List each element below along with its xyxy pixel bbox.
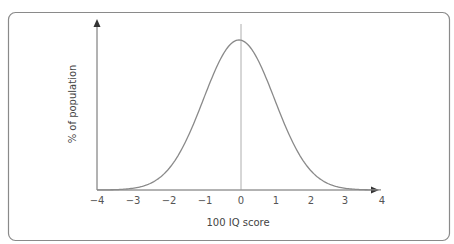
x-tick-label: 2 xyxy=(308,195,314,206)
x-tick-label: −4 xyxy=(90,195,105,206)
x-tick-label: 3 xyxy=(342,195,348,206)
y-axis-title: % of population xyxy=(67,65,78,144)
x-tick-labels: −4−3−2−101234 xyxy=(90,195,386,206)
x-axis-title: 100 IQ score xyxy=(206,217,269,228)
x-tick-label: −2 xyxy=(162,195,177,206)
x-tick-label: −1 xyxy=(198,195,213,206)
x-tick-label: 4 xyxy=(379,195,385,206)
x-tick-label: 1 xyxy=(273,195,279,206)
normal-distribution-chart: −4−3−2−101234 % of population 100 IQ sco… xyxy=(0,0,454,244)
x-tick-label: −3 xyxy=(126,195,141,206)
x-tick-label: 0 xyxy=(238,195,244,206)
